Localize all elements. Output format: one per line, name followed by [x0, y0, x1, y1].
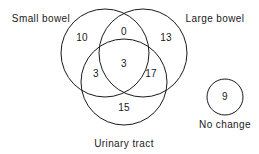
- set-label-small-bowel: Small bowel: [12, 13, 70, 24]
- region-count-no-change: 9: [222, 92, 228, 102]
- region-count-urinary-only: 15: [118, 103, 130, 113]
- region-count-small-urinary: 3: [93, 69, 99, 79]
- small-bowel-circle: [61, 9, 149, 97]
- set-label-large-bowel: Large bowel: [186, 13, 245, 24]
- set-label-urinary-tract: Urinary tract: [94, 138, 154, 149]
- region-count-small-large: 0: [121, 27, 127, 37]
- region-count-all-three: 3: [121, 59, 127, 69]
- venn-diagram-figure: Small bowel Large bowel Urinary tract No…: [0, 0, 259, 154]
- large-bowel-circle: [99, 9, 187, 97]
- region-count-large-bowel-only: 13: [160, 33, 172, 43]
- set-label-no-change: No change: [199, 119, 251, 130]
- region-count-small-bowel-only: 10: [76, 33, 88, 43]
- region-count-large-urinary: 17: [145, 69, 157, 79]
